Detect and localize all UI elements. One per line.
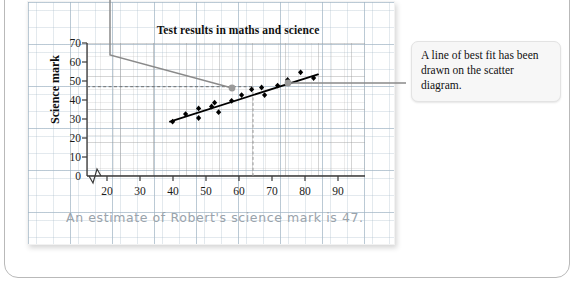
y-axis-ticks <box>82 43 87 157</box>
scatter-point <box>262 92 267 98</box>
x-axis-ticks <box>107 176 338 181</box>
scatter-point <box>196 106 201 112</box>
scatter-point <box>216 109 221 115</box>
callout-line-of-best-fit: A line of best fit has been drawn on the… <box>411 41 561 102</box>
scatter-point <box>259 85 264 91</box>
worksheet-page-card: Test results in maths and science Scienc… <box>4 0 570 278</box>
scatter-point <box>298 69 303 75</box>
line-of-best-fit <box>170 74 318 121</box>
handwritten-answer: An estimate of Robert's science mark is … <box>66 210 364 225</box>
graph-paper-card: Test results in maths and science Scienc… <box>27 1 395 245</box>
scatter-point <box>285 77 290 83</box>
scatter-point <box>212 100 217 106</box>
scatter-point <box>239 92 244 98</box>
scatter-points <box>170 69 316 124</box>
scatter-point <box>196 115 201 121</box>
